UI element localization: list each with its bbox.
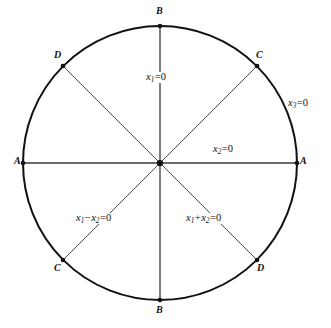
vertex-label-a-right: A — [300, 156, 307, 166]
equation-label-x3: x3=0 — [287, 98, 309, 109]
diagram-canvas — [0, 0, 331, 328]
equation-label-x1: x1=0 — [145, 72, 167, 83]
zero-value: 0 — [303, 97, 308, 108]
zero-value: 0 — [228, 143, 233, 154]
vertex-dot-a-right — [295, 161, 300, 166]
vertex-label-b-bottom: B — [156, 305, 163, 315]
equation-label-x2: x2=0 — [212, 144, 234, 155]
vertex-label-c-upper-right: C — [256, 50, 263, 60]
equation-label-x1-plus-x2: x1+x2=0 — [185, 213, 222, 224]
zero-value: 0 — [106, 212, 111, 223]
vertex-dot-a-left — [21, 161, 26, 166]
center-point — [157, 160, 163, 166]
vertex-label-b-top: B — [156, 6, 163, 16]
vertex-label-d-lower-right: D — [257, 263, 264, 273]
vertex-label-a-left: A — [14, 156, 21, 166]
zero-value: 0 — [216, 212, 221, 223]
vertex-dot-b-top — [158, 24, 163, 29]
circle-diagram-figure: B C A D B C A D x1=0 x2=0 x3=0 x1−x2=0 x… — [0, 0, 331, 328]
vertex-label-c-lower-left: C — [54, 263, 61, 273]
zero-value: 0 — [161, 71, 166, 82]
equation-label-x1-minus-x2: x1−x2=0 — [75, 213, 112, 224]
vertex-label-d-upper-left: D — [54, 50, 61, 60]
vertex-dot-b-bottom — [158, 298, 163, 303]
vertex-dot-d-upper-left — [61, 64, 66, 69]
vertex-dot-c-upper-right — [255, 64, 260, 69]
vertex-dot-c-lower-left — [61, 258, 66, 263]
